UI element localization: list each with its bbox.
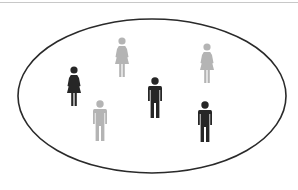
man-dark-icon xyxy=(198,101,212,142)
woman-dark-icon xyxy=(67,66,81,106)
man-light-icon xyxy=(93,100,107,141)
woman-light-icon xyxy=(115,37,129,77)
man-dark-icon xyxy=(148,77,162,118)
population-diagram xyxy=(0,0,298,190)
woman-light-icon xyxy=(200,43,214,83)
